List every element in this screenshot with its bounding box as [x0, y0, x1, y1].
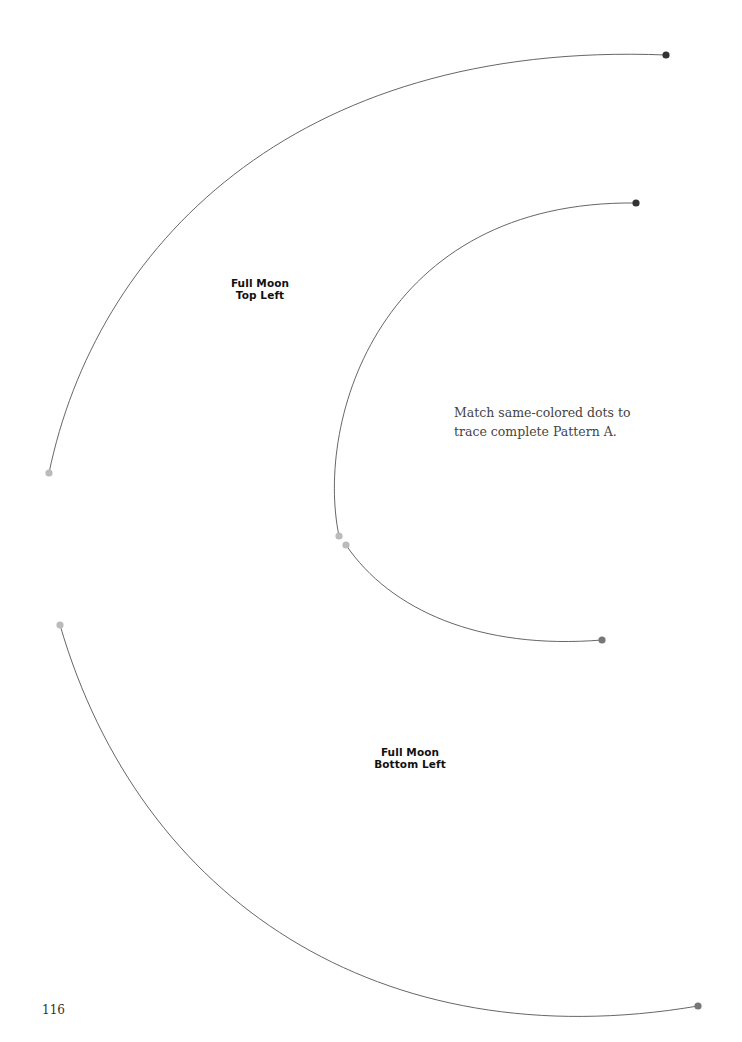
- dark-dot-top-right[interactable]: [662, 51, 669, 58]
- top-left-label-line1: Full Moon: [210, 277, 310, 289]
- light-dot-outer-left[interactable]: [45, 469, 52, 476]
- medium-dot-bottom-right[interactable]: [694, 1002, 701, 1009]
- inner-lower-arc: [346, 545, 602, 642]
- medium-dot-inner-lower-end[interactable]: [598, 636, 605, 643]
- bottom-left-outer-arc: [60, 625, 698, 1016]
- light-dot-inner-upper-start[interactable]: [335, 532, 342, 539]
- instruction-text: Match same-colored dots to trace complet…: [454, 403, 654, 441]
- top-left-label: Full Moon Top Left: [210, 277, 310, 301]
- bottom-left-label: Full Moon Bottom Left: [355, 746, 465, 770]
- light-dot-inner-lower-start[interactable]: [342, 541, 349, 548]
- pattern-arcs: [0, 0, 742, 1042]
- instruction-line2: trace complete Pattern A.: [454, 422, 654, 441]
- bottom-left-label-line1: Full Moon: [355, 746, 465, 758]
- inner-upper-arc: [334, 203, 636, 536]
- bottom-left-label-line2: Bottom Left: [355, 758, 465, 770]
- top-left-label-line2: Top Left: [210, 289, 310, 301]
- pattern-page: Full Moon Top Left Match same-colored do…: [0, 0, 742, 1042]
- instruction-line1: Match same-colored dots to: [454, 403, 654, 422]
- page-number: 116: [42, 1003, 65, 1017]
- light-dot-bottom-left[interactable]: [56, 621, 63, 628]
- dark-dot-inner-upper[interactable]: [632, 199, 639, 206]
